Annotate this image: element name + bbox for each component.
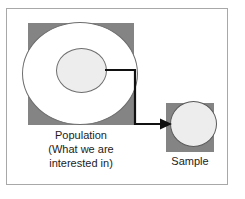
sample-label: Sample (166, 154, 214, 168)
diagram-root: Population (What we are interested in) S… (0, 0, 245, 199)
population-label-line-1: Population (28, 128, 134, 142)
population-label: Population (What we are interested in) (28, 128, 134, 170)
population-label-line-2: (What we are (28, 142, 134, 156)
population-label-line-3: interested in) (28, 156, 134, 170)
sampling-arrow-path (105, 70, 172, 130)
arrowhead-icon (160, 119, 172, 130)
